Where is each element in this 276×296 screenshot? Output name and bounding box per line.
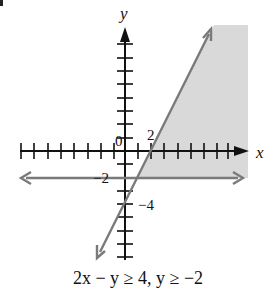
y-axis-arrow-icon [120,27,130,42]
inequality-graph: y x 0 2 −2 −4 [0,0,276,296]
y-tick-label-neg2: −2 [93,170,109,186]
x-tick-label-2: 2 [147,127,155,143]
shaded-solution-region [138,25,248,178]
origin-label: 0 [115,133,123,149]
y-tick-label-neg4: −4 [138,197,154,213]
inequality-caption: 2x − y ≥ 4, y ≥ −2 [0,268,276,289]
y-axis-label: y [118,4,128,23]
x-axis-label: x [255,143,264,162]
